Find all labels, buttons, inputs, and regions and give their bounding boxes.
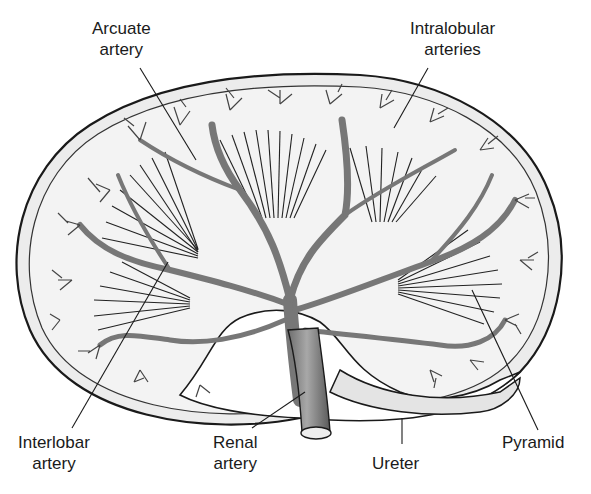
label-line: arteries [410, 39, 495, 60]
label-interlobar-artery: Interlobar artery [18, 432, 90, 474]
label-line: Interlobar [18, 432, 90, 453]
label-ureter: Ureter [372, 453, 419, 474]
label-line: Pyramid [502, 432, 564, 453]
label-line: Renal [213, 432, 257, 453]
kidney-illustration [0, 0, 591, 494]
label-renal-artery: Renal artery [213, 432, 257, 474]
renal-artery-opening [301, 427, 331, 439]
label-line: artery [18, 453, 90, 474]
label-line: artery [213, 453, 257, 474]
label-line: Arcuate [92, 18, 151, 39]
label-line: Ureter [372, 453, 419, 474]
label-line: artery [92, 39, 151, 60]
label-pyramid: Pyramid [502, 432, 564, 453]
kidney-diagram: Arcuate artery Intralobular arteries Int… [0, 0, 591, 494]
label-arcuate-artery: Arcuate artery [92, 18, 151, 60]
label-intralobular-arteries: Intralobular arteries [410, 18, 495, 60]
label-line: Intralobular [410, 18, 495, 39]
